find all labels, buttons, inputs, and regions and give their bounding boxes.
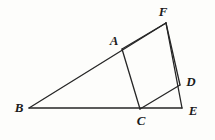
segment-a-c [122, 49, 140, 109]
segment-layer [29, 23, 182, 109]
segment-a-f [122, 23, 166, 49]
geometry-figure: ABCDEF [0, 0, 215, 140]
segment-f-d [166, 23, 180, 85]
vertex-label-e: E [189, 104, 198, 117]
vertex-label-f: F [159, 5, 168, 18]
segment-c-d [140, 85, 180, 109]
geometry-canvas [0, 0, 215, 140]
vertex-label-a: A [110, 34, 119, 47]
vertex-label-c: C [137, 114, 146, 127]
vertex-label-b: B [15, 101, 24, 114]
vertex-label-d: D [186, 75, 195, 88]
